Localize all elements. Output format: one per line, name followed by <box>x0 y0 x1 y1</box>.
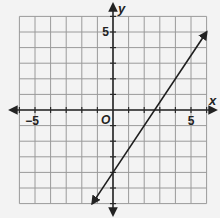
x-axis-label: x <box>208 93 217 108</box>
x-tick-label: −5 <box>25 114 39 128</box>
coordinate-graph: x y O −55 5 <box>0 0 220 218</box>
x-tick-label: 5 <box>188 114 195 128</box>
y-tick-label: 5 <box>102 25 109 39</box>
y-axis-label: y <box>117 1 126 16</box>
y-tick-labels: 5 <box>102 25 109 39</box>
origin-label: O <box>101 113 111 127</box>
